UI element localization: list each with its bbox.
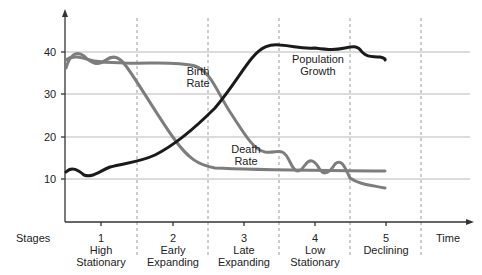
death-rate-annotation-line1: Death [226, 143, 266, 155]
stage-3-name-line1: Late [209, 244, 279, 256]
stage-3-name-line2: Expanding [209, 256, 279, 268]
stage-4-name-line1: Low [280, 244, 350, 256]
birth-rate-annotation-line1: Birth [178, 65, 218, 77]
population-growth-annotation: Population Growth [288, 53, 348, 77]
stage-4-name-line2: Stationary [280, 256, 350, 268]
stage-3-number: 3 [209, 232, 279, 244]
stage-1-name-line2: Stationary [66, 256, 136, 268]
y-axis-arrow-icon [62, 9, 68, 17]
stage-1-label: 1 High Stationary [66, 232, 136, 268]
x-axis-arrow-icon [466, 219, 474, 225]
stage-5-name-line1: Declining [351, 244, 421, 256]
gridlines [65, 52, 470, 179]
stage-2-name-line2: Expanding [138, 256, 208, 268]
stage-4-label: 4 Low Stationary [280, 232, 350, 268]
stage-1-number: 1 [66, 232, 136, 244]
population-growth-annotation-line1: Population [288, 53, 348, 65]
death-rate-annotation: Death Rate [226, 143, 266, 167]
stage-2-name-line1: Early [138, 244, 208, 256]
time-label: Time [428, 232, 468, 244]
stages-label: Stages [16, 232, 66, 244]
population-growth-annotation-line2: Growth [288, 65, 348, 77]
stage-2-label: 2 Early Expanding [138, 232, 208, 268]
stage-3-label: 3 Late Expanding [209, 232, 279, 268]
tick-label-30: 30 [42, 88, 58, 100]
stage-5-label: 5 Declining [351, 232, 421, 256]
stage-1-name-line1: High [66, 244, 136, 256]
birth-rate-annotation-line2: Rate [178, 77, 218, 89]
death-rate-annotation-line2: Rate [226, 155, 266, 167]
tick-label-40: 40 [42, 46, 58, 58]
stage-2-number: 2 [138, 232, 208, 244]
stage-4-number: 4 [280, 232, 350, 244]
tick-label-10: 10 [42, 173, 58, 185]
tick-label-20: 20 [42, 131, 58, 143]
stage-5-number: 5 [351, 232, 421, 244]
birth-rate-annotation: Birth Rate [178, 65, 218, 89]
